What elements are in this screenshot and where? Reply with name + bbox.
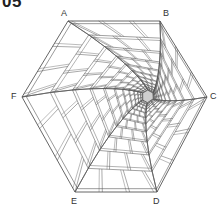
tile-divider-inner [147, 60, 153, 69]
tile-divider-inner [102, 108, 110, 119]
corner-ridge [114, 89, 122, 90]
tile-divider-inner [98, 129, 105, 148]
tile-divider [83, 74, 102, 76]
tile-divider [40, 109, 59, 129]
hexagon-spiral-diagram [0, 0, 220, 207]
tile-divider [126, 100, 131, 105]
tile-divider [135, 122, 136, 130]
tile-divider-inner [112, 104, 119, 112]
tile-divider-inner [125, 153, 129, 170]
corner-ridge [160, 52, 161, 62]
tile-divider [168, 123, 180, 125]
tile-divider-inner [180, 81, 184, 92]
tile-divider [99, 77, 114, 78]
tile-divider-inner [61, 100, 77, 114]
tile-divider-inner [80, 97, 93, 108]
tile-divider-inner [84, 73, 102, 74]
tile-divider [145, 60, 151, 69]
hexagon-outline [22, 21, 207, 192]
tile-divider-inner [189, 75, 194, 89]
tile-divider [142, 50, 151, 61]
hexagon-inner-outline [26, 24, 205, 189]
tile-divider-inner [126, 100, 131, 105]
tunnel-ring [50, 35, 194, 171]
tile-divider [133, 130, 135, 141]
tile-divider [120, 102, 126, 109]
tile-divider-inner [95, 95, 105, 103]
tile-divider [127, 153, 131, 170]
tile-divider [68, 21, 97, 35]
tile-divider [99, 21, 122, 36]
tile-divider [22, 86, 55, 97]
tile-divider [112, 105, 119, 114]
tile-divider-inner [102, 21, 124, 37]
tile-divider-inner [159, 159, 171, 164]
tile-divider-inner [139, 37, 150, 50]
tile-divider [187, 72, 191, 86]
tile-divider [88, 143, 96, 168]
tile-divider-inner [39, 64, 69, 69]
tile-divider [163, 118, 172, 119]
corner-ridge [89, 35, 105, 47]
tile-divider-inner [38, 106, 57, 125]
tile-divider [108, 95, 116, 101]
tile-divider [113, 36, 130, 49]
tile-divider-inner [144, 50, 152, 61]
tile-divider-inner [119, 101, 125, 107]
tile-divider-inner [108, 121, 114, 135]
tile-divider-inner [89, 113, 99, 128]
tile-divider [175, 129, 190, 132]
tile-divider [173, 84, 176, 92]
tile-divider [37, 66, 67, 71]
tile-divider-inner [87, 141, 95, 166]
tile-divider-inner [74, 121, 86, 140]
tile-divider [81, 99, 93, 110]
tile-divider [96, 97, 106, 105]
tile-divider-inner [132, 129, 133, 140]
tile-divider [102, 109, 110, 121]
tile-divider [90, 115, 100, 130]
tile-divider [76, 123, 88, 143]
tile-divider [179, 79, 183, 90]
tile-divider [157, 143, 167, 147]
tile-divider-inner [174, 132, 189, 134]
tile-divider-inner [141, 154, 149, 171]
tile-divider [75, 159, 84, 192]
tile-divider [99, 131, 106, 150]
tile-divider-inner [167, 126, 179, 127]
tile-divider-inner [141, 141, 147, 154]
tile-divider-inner [107, 94, 115, 100]
tile-divider-inner [116, 36, 132, 49]
tile-divider [63, 103, 78, 118]
tile-divider [161, 156, 174, 160]
corner-ridge [104, 46, 116, 56]
tile-divider-inner [107, 151, 108, 169]
tile-divider [137, 37, 149, 50]
tile-divider-inner [162, 121, 171, 122]
tile-divider-inner [107, 47, 124, 57]
corner-ridge [50, 90, 72, 93]
tile-divider [89, 35, 111, 47]
tile-divider [57, 134, 71, 160]
tile-divider-inner [55, 131, 69, 157]
